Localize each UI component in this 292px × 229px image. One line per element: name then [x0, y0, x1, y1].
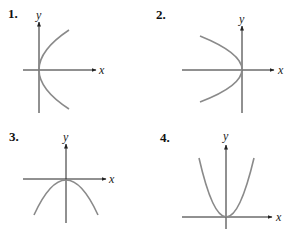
x-axis-label: x [98, 63, 105, 77]
panel-1: 1. y x [8, 6, 105, 113]
x-axis-label: x [275, 210, 282, 224]
panel-label: 3. [9, 129, 19, 144]
y-axis-label: y [238, 12, 245, 26]
y-axis-label: y [35, 8, 42, 22]
panel-label: 4. [160, 130, 170, 145]
panel-label: 2. [156, 7, 166, 22]
panel-2: 2. y x [156, 7, 284, 113]
y-axis-label: y [222, 129, 229, 143]
x-axis-label: x [108, 172, 115, 186]
panel-label: 1. [8, 6, 18, 21]
parabola-curve [200, 36, 242, 102]
y-axis-label: y [62, 130, 69, 144]
panel-3: 3. y x [9, 129, 115, 223]
panel-4: 4. y x [160, 129, 282, 229]
graph-grid: 1. y x 2. y x 3. y x 4. y x [0, 0, 292, 229]
x-axis-label: x [277, 63, 284, 77]
